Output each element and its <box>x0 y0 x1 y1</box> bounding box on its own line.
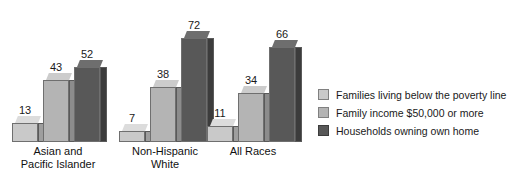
bar-asian-pacific-islander-poverty: 13 <box>12 123 38 142</box>
bar-value-label: 34 <box>245 74 257 86</box>
bar-side-face <box>295 47 302 142</box>
bar-value-label: 38 <box>157 68 169 80</box>
bar-front-face <box>119 131 145 142</box>
group-label-all-races: All Races <box>201 145 305 158</box>
bar-value-label: 43 <box>50 61 62 73</box>
bar-side-face <box>100 67 107 142</box>
bar-front-face <box>43 80 69 142</box>
bar-all-races-homeowner: 66 <box>269 47 295 142</box>
bar-front-face <box>269 47 295 142</box>
group-label-asian-pacific-islander: Asian and Pacific Islander <box>6 145 110 171</box>
bar-top-face <box>77 60 103 67</box>
bar-top-face <box>122 124 148 131</box>
bar-all-races-poverty: 11 <box>207 126 233 142</box>
bar-top-face <box>272 40 298 47</box>
bar-front-face <box>181 38 207 142</box>
bar-non-hispanic-white-homeowner: 72 <box>181 38 207 142</box>
chart-legend: Families living below the poverty line F… <box>318 86 514 140</box>
group-label-line2: Pacific Islander <box>6 158 110 171</box>
legend-item-label: Families living below the poverty line <box>336 89 506 101</box>
plot-area: 13 43 52 <box>0 0 300 177</box>
legend-item-label: Households owning own home <box>336 125 479 137</box>
bar-value-label: 7 <box>129 112 135 124</box>
bar-top-face <box>46 73 72 80</box>
bar-value-label: 11 <box>214 107 225 119</box>
bar-value-label: 52 <box>81 48 93 60</box>
bar-value-label: 72 <box>188 19 200 31</box>
bar-asian-pacific-islander-income: 43 <box>43 80 69 142</box>
bar-asian-pacific-islander-homeowner: 52 <box>74 67 100 142</box>
bar-front-face <box>207 126 233 142</box>
bar-front-face <box>150 87 176 142</box>
legend-item-poverty: Families living below the poverty line <box>318 86 514 103</box>
bar-top-face <box>241 86 267 93</box>
legend-item-homeowner: Households owning own home <box>318 122 514 139</box>
bar-front-face <box>12 123 38 142</box>
bar-non-hispanic-white-income: 38 <box>150 87 176 142</box>
bar-front-face <box>74 67 100 142</box>
bar-all-races-income: 34 <box>238 93 264 142</box>
legend-swatch-icon <box>318 107 329 118</box>
bar-value-label: 66 <box>276 28 288 40</box>
group-label-line1: All Races <box>201 145 305 158</box>
legend-item-income: Family income $50,000 or more <box>318 104 514 121</box>
bar-top-face <box>15 116 41 123</box>
legend-swatch-icon <box>318 125 329 136</box>
legend-swatch-icon <box>318 89 329 100</box>
bar-front-face <box>238 93 264 142</box>
bar-chart: 13 43 52 <box>0 0 516 177</box>
bar-top-face <box>184 31 210 38</box>
bar-non-hispanic-white-poverty: 7 <box>119 131 145 142</box>
bar-top-face <box>153 80 179 87</box>
group-label-line1: Asian and <box>6 145 110 158</box>
legend-item-label: Family income $50,000 or more <box>336 107 484 119</box>
group-label-line2: White <box>113 158 217 171</box>
bar-value-label: 13 <box>19 104 31 116</box>
bar-top-face <box>210 119 236 126</box>
